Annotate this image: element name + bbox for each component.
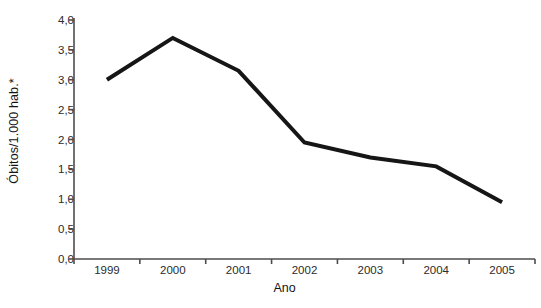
plot-area — [0, 0, 541, 308]
x-axis-tick-label: 2005 — [489, 264, 515, 276]
line-chart: Óbitos/1.000 hab.* 0,00,51,01,52,02,53,0… — [0, 0, 541, 308]
axis-lines — [74, 18, 535, 259]
x-axis-tick-label: 2004 — [423, 264, 449, 276]
x-axis-tick-label: 2000 — [160, 264, 186, 276]
x-axis-title-text: Ano — [273, 281, 295, 295]
x-axis-tick-label: 1999 — [94, 264, 120, 276]
data-series-line — [107, 38, 502, 202]
x-axis-tick-label: 2003 — [358, 264, 384, 276]
x-axis-tick-label: 2001 — [226, 264, 252, 276]
x-axis-title: Ano — [0, 281, 541, 295]
x-axis-tick-label: 2002 — [292, 264, 318, 276]
